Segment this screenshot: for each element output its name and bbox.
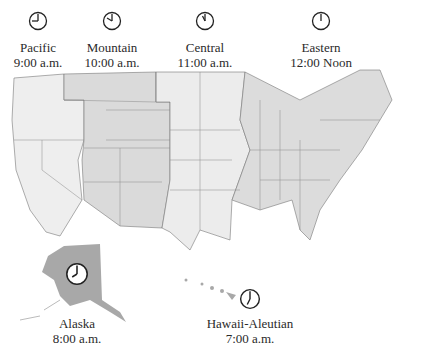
central-zone — [156, 72, 250, 250]
clock-icon-eastern — [311, 11, 331, 31]
zone-label-central: Central11:00 a.m. — [145, 40, 265, 70]
zone-label-alaska: Alaska8:00 a.m. — [17, 316, 137, 346]
clock-icon-mountain — [102, 11, 122, 31]
clock-icon-hawaii-aleutian — [239, 288, 261, 310]
hawaii — [185, 279, 237, 301]
zone-label-eastern: Eastern12:00 Noon — [261, 40, 381, 70]
clock-icon-alaska — [65, 262, 89, 286]
clock-icon-pacific — [28, 11, 48, 31]
zone-label-hawaii-aleutian: Hawaii-Aleutian7:00 a.m. — [190, 316, 310, 346]
eastern-zone — [232, 70, 392, 240]
clock-icon-central — [195, 11, 215, 31]
